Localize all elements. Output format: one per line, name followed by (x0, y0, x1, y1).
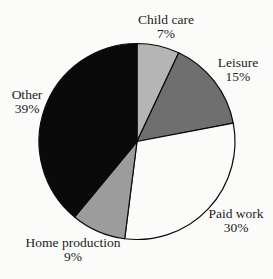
slice-label-home-production-name: Home production (26, 236, 121, 250)
slice-label-child-care: Child care 7% (138, 13, 194, 41)
slice-label-home-production-value: 9% (26, 250, 121, 264)
pie-slices (39, 43, 235, 239)
slice-label-other-value: 39% (12, 102, 43, 116)
slice-label-paid-work-value: 30% (208, 221, 263, 235)
slice-label-leisure-name: Leisure (218, 56, 258, 70)
slice-label-child-care-name: Child care (138, 13, 194, 27)
slice-label-leisure-value: 15% (218, 70, 258, 84)
pie-chart-figure: Child care 7% Leisure 15% Paid work 30% … (0, 0, 273, 279)
slice-label-other: Other 39% (12, 88, 43, 116)
slice-label-leisure: Leisure 15% (218, 56, 258, 84)
slice-label-child-care-value: 7% (138, 27, 194, 41)
slice-label-paid-work-name: Paid work (208, 207, 263, 221)
slice-label-home-production: Home production 9% (26, 236, 121, 264)
slice-label-paid-work: Paid work 30% (208, 207, 263, 235)
slice-label-other-name: Other (12, 88, 43, 102)
